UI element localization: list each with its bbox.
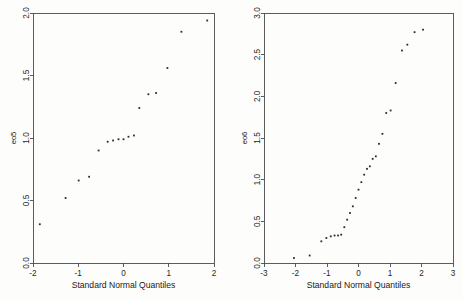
x-tick-label: -3	[260, 269, 268, 278]
chart-panel-right: -3-2-101230.00.51.01.52.02.53.0Standard …	[232, 0, 463, 300]
data-point	[349, 212, 351, 214]
data-point-group	[293, 29, 424, 259]
data-point	[378, 143, 380, 145]
qq-plot-figure: -2-10120.00.51.01.52.0Standard Normal Qu…	[0, 0, 463, 300]
x-tick-label: 0	[356, 269, 361, 278]
y-tick-label: 0.5	[22, 194, 31, 206]
data-point	[337, 235, 339, 237]
y-tick-label: 1.5	[22, 69, 31, 81]
data-point	[181, 31, 183, 33]
y-tick-label: 0.0	[22, 257, 31, 269]
data-point	[133, 135, 135, 137]
data-point	[382, 133, 384, 135]
scatter-plot-left: -2-10120.00.51.01.52.0Standard Normal Qu…	[0, 0, 232, 300]
data-point	[112, 140, 114, 142]
x-tick-label: -2	[292, 269, 300, 278]
data-point	[355, 197, 357, 199]
data-point	[166, 67, 168, 69]
x-tick-label: -1	[323, 269, 331, 278]
data-point	[366, 168, 368, 170]
y-axis-title: eo5	[9, 132, 18, 145]
data-point	[372, 158, 374, 160]
y-tick-label: 0.5	[253, 215, 262, 227]
data-point	[123, 138, 125, 140]
data-point	[346, 219, 348, 221]
x-tick-label: -2	[29, 269, 37, 278]
data-point	[422, 29, 424, 31]
data-point	[360, 181, 362, 183]
x-axis-title: Standard Normal Quantiles	[72, 280, 176, 290]
x-tick-label: 1	[388, 269, 393, 278]
data-point	[385, 112, 387, 114]
data-point	[206, 20, 208, 22]
data-point	[65, 197, 67, 199]
y-tick-label: 0.0	[253, 257, 262, 269]
data-point	[395, 82, 397, 84]
data-point	[128, 136, 130, 138]
data-point	[334, 235, 336, 237]
y-tick-label: 3.0	[253, 7, 262, 19]
data-point	[309, 255, 311, 257]
y-tick-label: 1.5	[253, 132, 262, 144]
data-point	[363, 174, 365, 176]
data-point	[343, 226, 345, 228]
data-point	[147, 93, 149, 95]
data-point	[406, 44, 408, 46]
data-point	[340, 234, 342, 236]
data-point	[320, 240, 322, 242]
data-point	[118, 138, 120, 140]
x-tick-label: -1	[75, 269, 83, 278]
data-point	[107, 141, 109, 143]
data-point	[358, 189, 360, 191]
data-point	[369, 165, 371, 167]
data-point	[390, 110, 392, 112]
data-point	[293, 257, 295, 259]
data-point	[375, 155, 377, 157]
data-point	[88, 176, 90, 178]
x-tick-label: 1	[166, 269, 171, 278]
y-tick-label: 2.0	[22, 7, 31, 19]
x-tick-label: 2	[212, 269, 217, 278]
y-axis-title: eo6	[240, 132, 249, 145]
data-point	[414, 31, 416, 33]
data-point	[98, 150, 100, 152]
data-point	[39, 223, 41, 225]
y-tick-label: 1.0	[253, 174, 262, 186]
plot-frame	[264, 13, 453, 263]
chart-panel-left: -2-10120.00.51.01.52.0Standard Normal Qu…	[0, 0, 232, 300]
x-tick-label: 2	[419, 269, 424, 278]
data-point	[78, 180, 80, 182]
scatter-plot-right: -3-2-101230.00.51.01.52.02.53.0Standard …	[232, 0, 463, 300]
data-point	[352, 205, 354, 207]
y-tick-label: 2.0	[253, 90, 262, 102]
x-tick-label: 0	[121, 269, 126, 278]
y-tick-label: 1.0	[22, 132, 31, 144]
plot-frame	[33, 13, 214, 263]
data-point	[155, 92, 157, 94]
data-point	[401, 50, 403, 52]
data-point	[325, 237, 327, 239]
data-point-group	[39, 20, 208, 226]
data-point	[330, 235, 332, 237]
y-tick-label: 2.5	[253, 49, 262, 61]
x-axis-title: Standard Normal Quantiles	[307, 280, 411, 290]
data-point	[138, 107, 140, 109]
x-tick-label: 3	[451, 269, 456, 278]
